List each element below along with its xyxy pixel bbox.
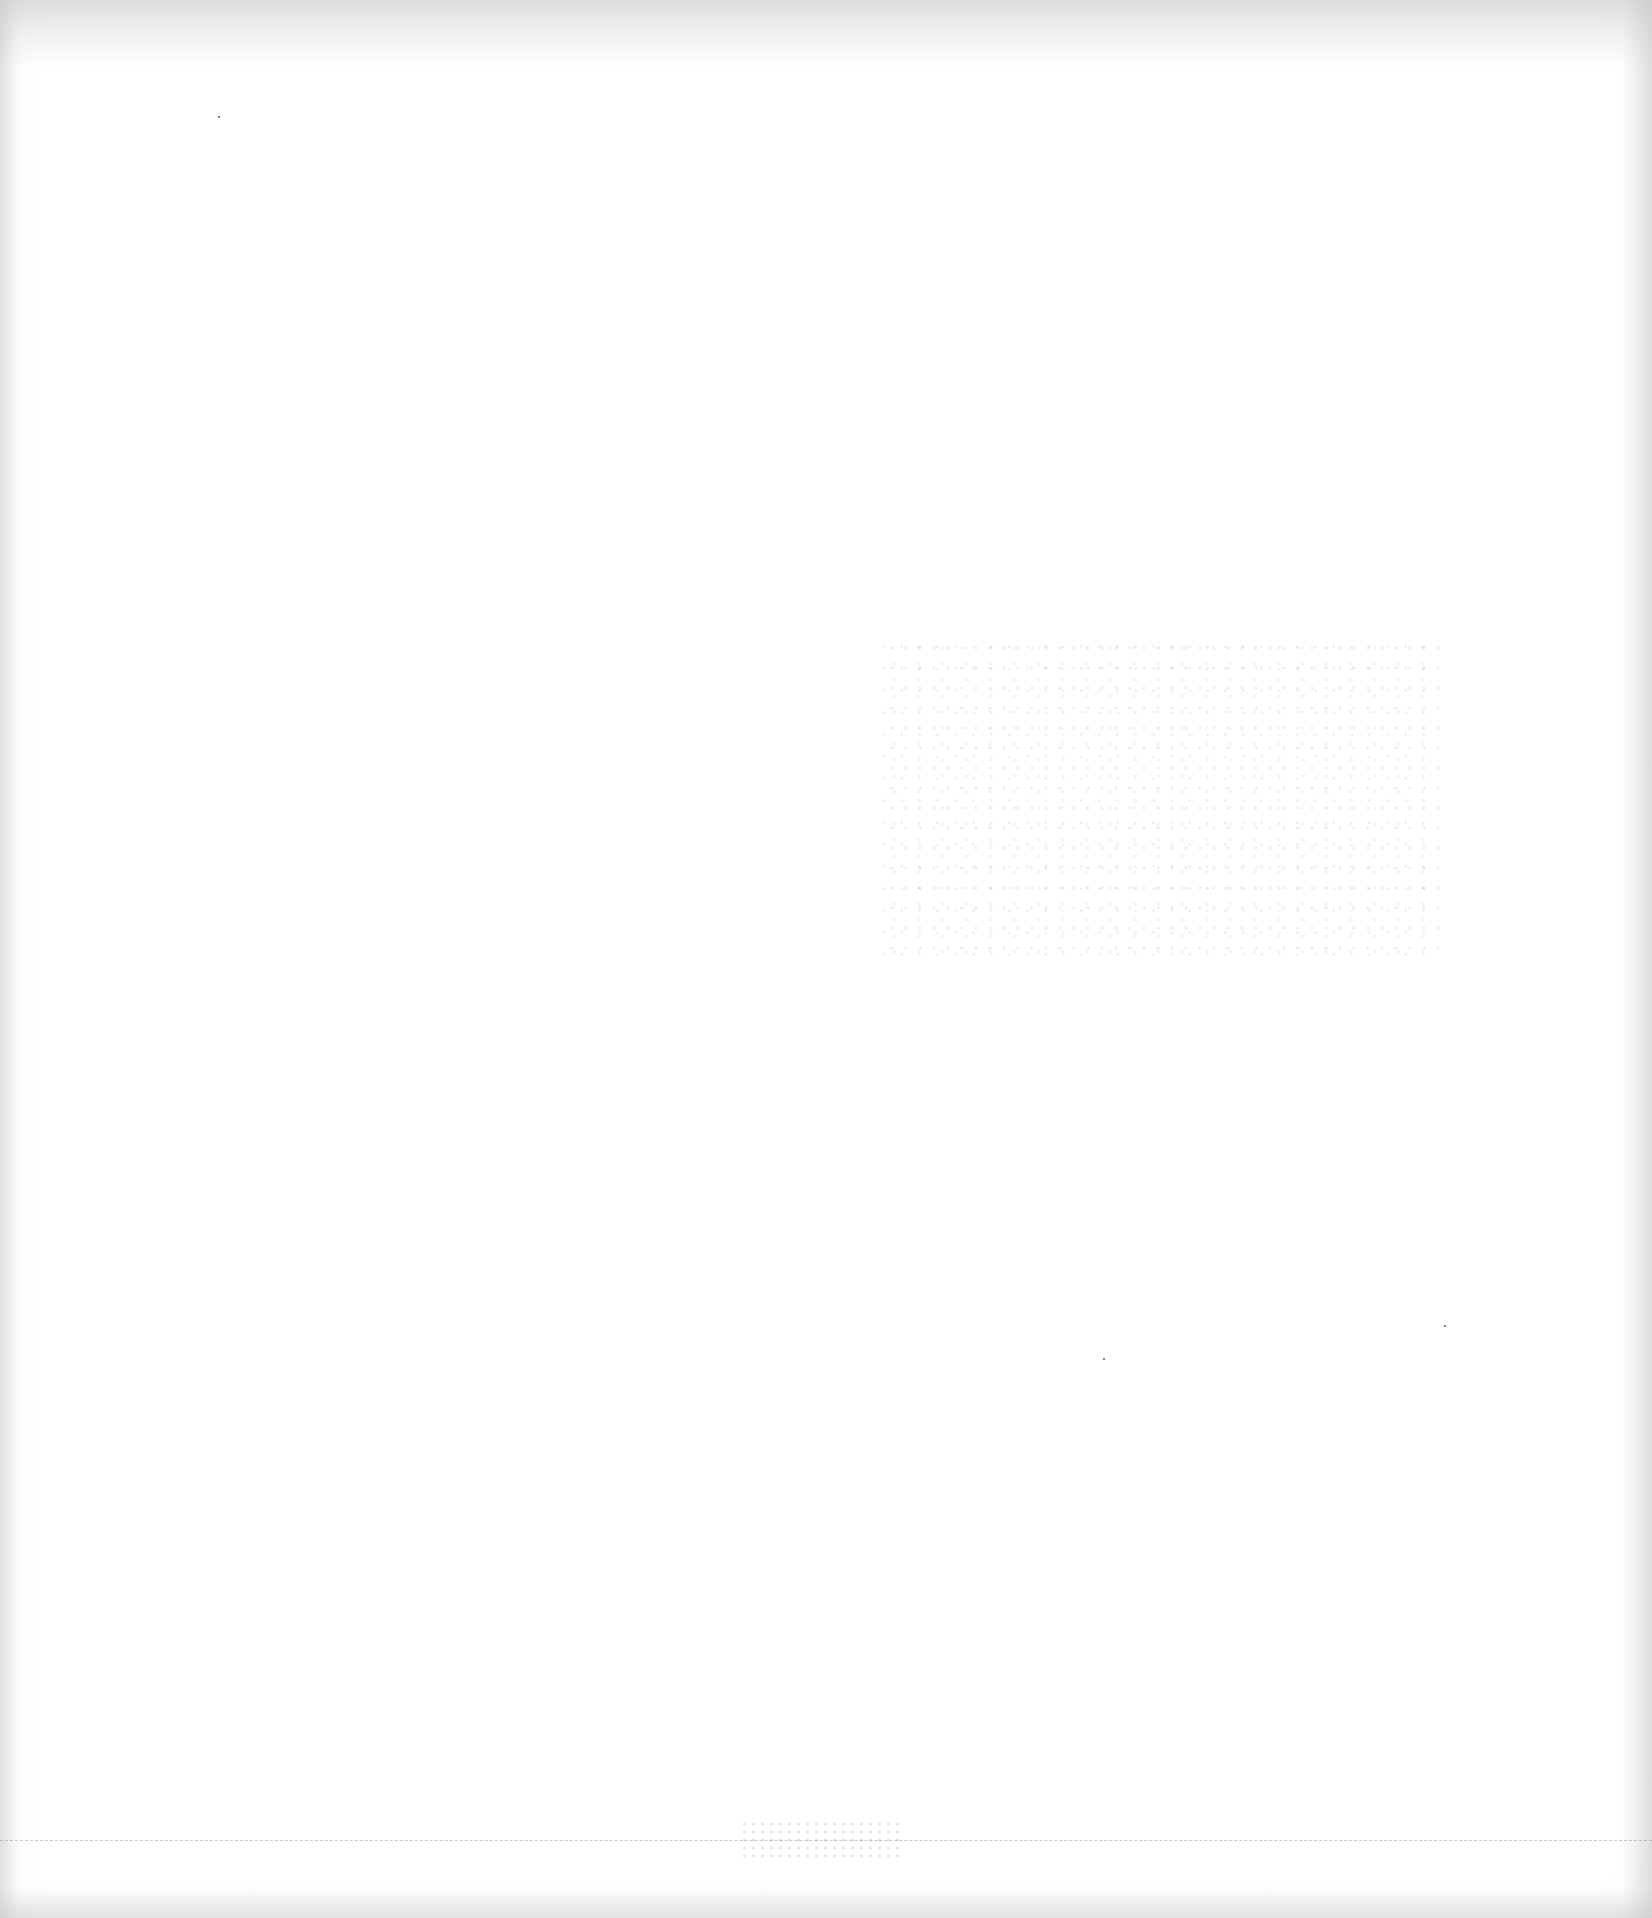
dust-dot — [1444, 1325, 1446, 1327]
dust-dot — [218, 116, 220, 118]
bleed-through-artifact — [880, 640, 1440, 960]
page-edge-shadow-left — [0, 0, 18, 1918]
page-edge-shadow-top — [0, 0, 1652, 70]
dust-dot — [1103, 1358, 1105, 1360]
scanned-page — [0, 0, 1652, 1918]
page-edge-shadow-right — [1622, 0, 1652, 1918]
speckle-smudge — [740, 1820, 900, 1860]
page-edge-shadow-bottom — [0, 1888, 1652, 1918]
